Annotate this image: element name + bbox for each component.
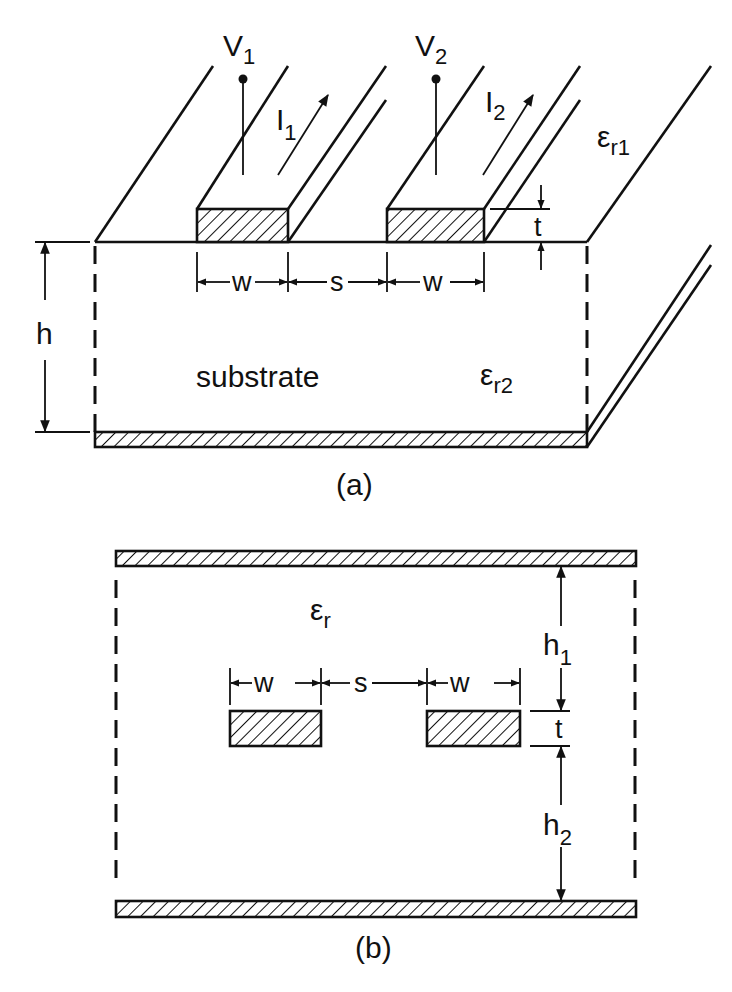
label-v1: V1 <box>223 29 255 69</box>
dimension-h-a: h <box>35 242 90 432</box>
label-s-b: s <box>354 668 368 698</box>
coupled-microstrip-diagram: V1 V2 I1 I2 εr1 t w s <box>0 0 732 992</box>
ground-plane-a <box>95 245 711 447</box>
caption-a: (a) <box>336 468 373 501</box>
label-h2-b: h2 <box>543 808 572 850</box>
label-h-a: h <box>36 317 53 350</box>
label-substrate: substrate <box>196 360 319 393</box>
bottom-ground-plane-b <box>116 901 636 917</box>
conductor-strip-1-b <box>230 711 321 746</box>
voltage-probe-1 <box>239 75 248 176</box>
figure-a: V1 V2 I1 I2 εr1 t w s <box>35 29 711 501</box>
caption-b: (b) <box>355 931 392 964</box>
dimension-w-s-w-b: w s w <box>230 668 520 705</box>
label-t-b: t <box>555 714 563 744</box>
conductor-strip-2-b <box>427 711 520 746</box>
dimension-t-a: t <box>490 185 550 270</box>
label-eps-r2: εr2 <box>480 358 513 398</box>
label-eps-r1: εr1 <box>597 120 630 160</box>
label-w2-a: w <box>422 267 443 297</box>
voltage-probe-2 <box>432 75 441 176</box>
label-t-a: t <box>534 212 542 242</box>
label-h1-b: h1 <box>543 628 572 670</box>
top-ground-plane-b <box>116 551 636 566</box>
label-w2-b: w <box>449 668 470 698</box>
label-w1-b: w <box>253 668 274 698</box>
label-s-a: s <box>330 267 344 297</box>
label-eps-r-b: εr <box>310 593 331 633</box>
dimension-w-s-w-a: w s w <box>197 252 484 297</box>
label-w1-a: w <box>231 267 252 297</box>
label-i1: I1 <box>276 103 297 145</box>
conductor-strip-2 <box>387 66 580 242</box>
figure-b: εr w s w h1 t <box>116 551 636 964</box>
label-i2: I2 <box>485 85 506 125</box>
label-v2: V2 <box>415 29 447 69</box>
dimension-h1-t-h2-b: h1 t h2 <box>530 567 572 900</box>
